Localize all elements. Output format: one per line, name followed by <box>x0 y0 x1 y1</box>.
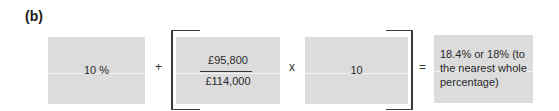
result-box: 18.4% or 18% (to the nearest whole perce… <box>434 35 533 103</box>
part-label: (b) <box>25 8 43 24</box>
equals-operator: = <box>419 60 426 74</box>
term3-text: 10 <box>305 64 408 76</box>
fraction-bar <box>200 71 252 72</box>
fraction-box: £95,800 £114,000 <box>176 37 280 104</box>
term1-text: 10 % <box>48 64 145 76</box>
result-text: 18.4% or 18% (to the nearest whole perce… <box>440 47 529 89</box>
fraction-numerator: £95,800 <box>176 54 280 66</box>
term1-box: 10 % <box>48 37 145 104</box>
times-operator: x <box>289 60 295 74</box>
fraction-denominator: £114,000 <box>176 75 280 87</box>
plus-operator: + <box>155 60 162 74</box>
